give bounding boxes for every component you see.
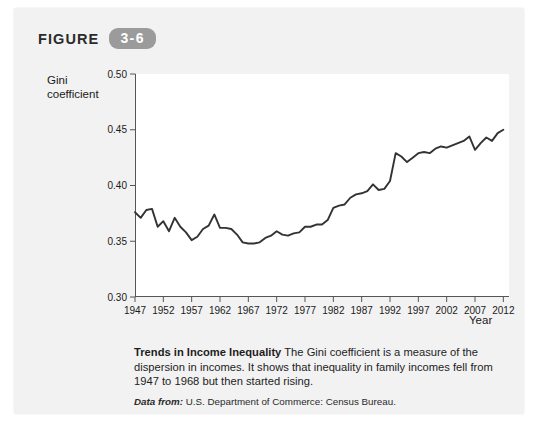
svg-text:0.35: 0.35 — [108, 236, 128, 247]
svg-text:1992: 1992 — [379, 305, 402, 316]
line-chart: 0.300.350.400.450.5019471952195719621967… — [135, 74, 509, 297]
svg-text:1957: 1957 — [181, 305, 204, 316]
x-axis-title: Year — [469, 314, 492, 326]
svg-text:1997: 1997 — [407, 305, 430, 316]
caption-block: Trends in Income Inequality The Gini coe… — [134, 345, 516, 407]
figure-number-badge: 3-6 — [109, 28, 155, 49]
svg-text:1952: 1952 — [152, 305, 175, 316]
plot-panel: 0.300.350.400.450.5019471952195719621967… — [135, 74, 509, 297]
svg-text:1967: 1967 — [237, 305, 260, 316]
svg-text:0.30: 0.30 — [108, 292, 128, 303]
svg-text:1947: 1947 — [124, 305, 147, 316]
svg-text:1982: 1982 — [322, 305, 345, 316]
svg-text:0.45: 0.45 — [108, 124, 128, 135]
svg-text:0.50: 0.50 — [108, 69, 128, 80]
svg-text:1962: 1962 — [209, 305, 232, 316]
figure-header: FIGURE 3-6 — [38, 28, 156, 49]
svg-text:1987: 1987 — [351, 305, 374, 316]
svg-text:1972: 1972 — [266, 305, 289, 316]
caption-text: Trends in Income Inequality The Gini coe… — [134, 345, 516, 389]
caption-title: Trends in Income Inequality — [134, 346, 281, 358]
source-text: U.S. Department of Commerce: Census Bure… — [183, 396, 396, 407]
svg-text:0.40: 0.40 — [108, 180, 128, 191]
source-line: Data from: U.S. Department of Commerce: … — [134, 396, 516, 407]
figure-card: FIGURE 3-6 Gini coefficient 0.300.350.40… — [14, 8, 524, 414]
figure-label: FIGURE — [38, 31, 99, 47]
svg-text:1977: 1977 — [294, 305, 317, 316]
svg-text:2002: 2002 — [436, 305, 459, 316]
svg-text:2012: 2012 — [492, 305, 515, 316]
source-prefix: Data from: — [134, 396, 183, 407]
